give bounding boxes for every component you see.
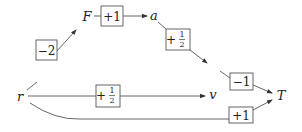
weight-box-r-T: +1 <box>229 107 253 123</box>
svg-text:+1: +1 <box>232 109 250 123</box>
svg-text:1: 1 <box>109 86 114 95</box>
node-a: a <box>150 8 158 23</box>
svg-text:1: 1 <box>179 30 184 39</box>
node-T: T <box>277 88 287 103</box>
weight-box-v-T: −1 <box>230 73 253 90</box>
weight-box-a-v: + 1 2 <box>166 29 190 50</box>
svg-text:+1: +1 <box>103 10 121 24</box>
node-v: v <box>209 87 217 102</box>
svg-text:+: + <box>166 33 176 47</box>
node-r: r <box>17 89 24 104</box>
svg-text:2: 2 <box>109 96 114 105</box>
svg-text:−1: −1 <box>233 75 251 89</box>
node-F: F <box>81 9 92 24</box>
svg-text:+: + <box>96 89 106 103</box>
svg-text:2: 2 <box>179 40 184 49</box>
weight-box-r-F: −2 <box>36 40 57 60</box>
weight-box-F-a: +1 <box>101 6 123 26</box>
svg-text:−2: −2 <box>38 44 56 58</box>
causal-diagram: −2 +1 + 1 2 + 1 2 −1 +1 r F a v T <box>0 0 302 132</box>
weight-box-r-v: + 1 2 <box>96 85 120 107</box>
